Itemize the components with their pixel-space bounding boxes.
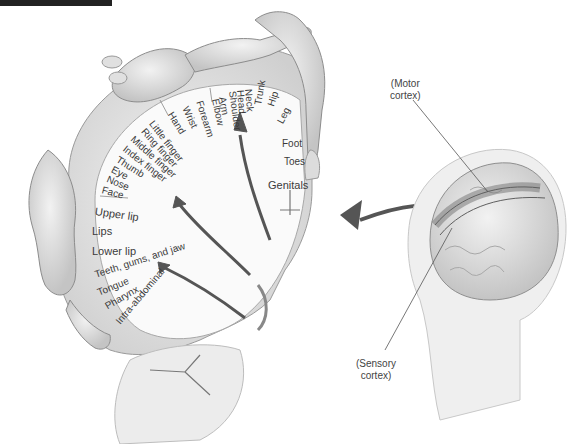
homunculus-figure (29, 12, 325, 444)
body-part-label: Lower lip (92, 246, 136, 257)
sensory-line2: cortex) (356, 370, 396, 382)
motor-cortex-label: (Motor cortex) (390, 78, 421, 101)
body-part-label: Toes (284, 157, 305, 167)
motor-line2: cortex) (390, 90, 421, 102)
body-part-label: Genitals (268, 180, 308, 191)
head-brain (408, 149, 566, 420)
motor-line1: (Motor (390, 78, 421, 90)
sensory-line1: (Sensory (356, 358, 396, 370)
illustration (0, 0, 570, 444)
body-part-label: Foot (282, 139, 302, 149)
body-part-label: Lips (92, 226, 112, 237)
sensory-cortex-label: (Sensory cortex) (356, 358, 396, 381)
